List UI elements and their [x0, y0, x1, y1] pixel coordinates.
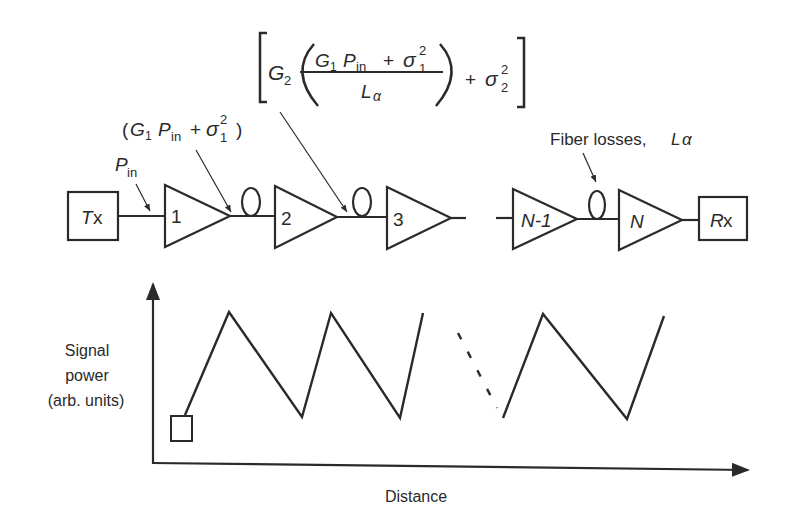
diagram-canvas: G 2 G 1 P in + σ 2 1 L α + σ 2 2 ( G 1 P… — [0, 0, 795, 527]
optical-amplifier-chain-diagram: G 2 G 1 P in + σ 2 1 L α + σ 2 2 ( G 1 P… — [0, 0, 795, 527]
plus-sign: + — [190, 119, 201, 140]
l-symbol: L — [361, 81, 372, 102]
signal-gap-dashed — [458, 333, 497, 408]
sigma-symbol: σ — [206, 117, 220, 140]
amplifier-1-label: 1 — [171, 206, 182, 227]
receiver-label-x: x — [723, 210, 733, 231]
fiber-coil-icon — [589, 191, 605, 219]
amplifier-2-label: 2 — [281, 208, 292, 229]
signal-trace-2 — [503, 314, 664, 419]
noise-formula-second-stage: G 2 G 1 P in + σ 2 1 L α + σ 2 2 — [260, 33, 524, 107]
plus-sign: + — [383, 50, 394, 71]
right-bracket — [517, 38, 524, 107]
p-symbol: P — [343, 50, 356, 71]
start-marker-square — [171, 416, 192, 441]
alpha-subscript: α — [373, 88, 382, 104]
x-axis — [152, 463, 748, 470]
pointer-arrow-stage2 — [280, 112, 347, 212]
fiber-losses-text: Fiber losses, — [550, 130, 646, 149]
g1-symbol: G — [315, 50, 330, 71]
noise-formula-first-stage: ( G 1 P in + σ 2 1 ) — [122, 112, 242, 145]
p-subscript: in — [171, 129, 181, 144]
g2-subscript: 2 — [284, 73, 291, 88]
input-power-label: P in — [115, 154, 137, 180]
sigma-subscript: 1 — [220, 130, 227, 145]
y-axis-label-line-2: power — [65, 367, 109, 384]
y-axis-label-line-3: (arb. units) — [48, 392, 124, 409]
l-symbol: L — [671, 130, 680, 149]
x-axis-label: Distance — [385, 488, 447, 505]
open-paren: ( — [122, 119, 129, 140]
fiber-coil-icon — [353, 188, 371, 216]
sigma-superscript: 2 — [220, 112, 227, 127]
sigma1-superscript: 2 — [419, 43, 426, 58]
amplifier-n-minus-1-label: N-1 — [521, 210, 552, 231]
amplifier-n-label: N — [630, 211, 644, 232]
sigma2-superscript: 2 — [501, 62, 508, 77]
amplifier-n — [619, 190, 682, 250]
amplifier-3-label: 3 — [393, 209, 404, 230]
g1-subscript: 1 — [145, 129, 152, 143]
pointer-arrow-fiber — [583, 153, 596, 182]
fiber-losses-label: Fiber losses, L α — [550, 130, 693, 149]
left-bracket — [260, 33, 267, 102]
amplifier-chain — [68, 185, 747, 250]
sigma1-subscript: 1 — [419, 61, 426, 76]
fiber-coil-icon — [242, 188, 260, 216]
g1-symbol: G — [130, 119, 145, 140]
sigma2-symbol: σ — [485, 67, 499, 90]
plus-sign-2: + — [465, 69, 476, 90]
sigma1-symbol: σ — [403, 48, 417, 71]
close-paren: ) — [236, 119, 242, 140]
transmitter-label-x: x — [93, 207, 103, 228]
pointer-arrow-pin — [136, 184, 150, 211]
right-paren — [436, 44, 452, 106]
signal-trace-1 — [185, 312, 423, 418]
p-symbol: P — [158, 119, 171, 140]
sigma2-subscript: 2 — [501, 80, 508, 95]
y-axis-label-line-1: Signal — [65, 342, 109, 359]
g2-symbol: G — [268, 61, 284, 84]
receiver-label-r: R — [710, 210, 724, 231]
alpha-symbol: α — [682, 130, 693, 149]
signal-power-chart: Signal power (arb. units) Distance — [48, 284, 748, 505]
p-subscript: in — [127, 165, 137, 180]
